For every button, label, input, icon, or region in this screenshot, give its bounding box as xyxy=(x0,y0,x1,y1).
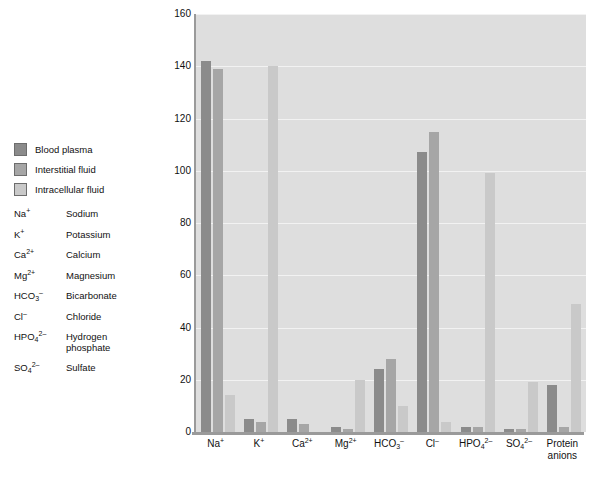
legend-item-intracellular-fluid: Intracellular fluid xyxy=(14,180,164,198)
x-axis-tick-label: Ca2+ xyxy=(281,438,324,451)
abbreviation-row-sodium: Na+ Sodium xyxy=(14,208,164,220)
plot-area: 020406080100120140160 xyxy=(194,14,586,432)
bar xyxy=(268,66,278,432)
bar-group xyxy=(543,304,586,432)
legend-swatch-list: Blood plasma Interstitial fluid Intracel… xyxy=(14,140,164,198)
x-axis-tick-label: Cl– xyxy=(411,438,454,451)
abbreviation-row-calcium: Ca2+ Calcium xyxy=(14,249,164,261)
x-axis-tick-label: Mg2+ xyxy=(324,438,367,451)
bar xyxy=(256,422,266,432)
y-axis-tick-label: 140 xyxy=(174,61,191,71)
bar xyxy=(398,406,408,432)
bar-chart: Total solute concentration (mEq/L) 02040… xyxy=(160,8,588,478)
bar xyxy=(485,173,495,432)
bar-group xyxy=(499,382,542,432)
legend-label-intracellular-fluid: Intracellular fluid xyxy=(35,184,104,195)
abbreviation-row-magnesium: Mg2+ Magnesium xyxy=(14,270,164,282)
bar-group xyxy=(369,359,412,432)
bar xyxy=(441,422,451,432)
y-axis-tick-label: 60 xyxy=(180,270,191,280)
abbreviation-row-hydrogen-phosphate: HPO42– Hydrogenphosphate xyxy=(14,331,164,353)
bar-group xyxy=(413,132,456,432)
abbreviation-symbol-hydrogen-phosphate: HPO42– xyxy=(14,331,66,343)
bar xyxy=(571,304,581,432)
legend-label-interstitial-fluid: Interstitial fluid xyxy=(35,164,96,175)
legend-swatch-blood-plasma xyxy=(14,143,27,156)
bar-group xyxy=(239,66,282,432)
x-axis-tick-label: HPO42– xyxy=(454,438,497,451)
y-axis-tick-label: 20 xyxy=(180,375,191,385)
bar xyxy=(287,419,297,432)
x-axis-tick-label: Proteinanions xyxy=(541,438,584,462)
abbreviation-symbol-magnesium: Mg2+ xyxy=(14,270,66,282)
abbreviation-name-hydrogen-phosphate: Hydrogenphosphate xyxy=(66,331,110,353)
abbreviation-row-bicarbonate: HCO3– Bicarbonate xyxy=(14,290,164,302)
abbreviation-row-chloride: Cl– Chloride xyxy=(14,311,164,323)
bar xyxy=(386,359,396,432)
bar xyxy=(299,424,309,432)
x-axis-line xyxy=(192,432,584,435)
y-axis-tick-label: 80 xyxy=(180,218,191,228)
bar xyxy=(528,382,538,432)
abbreviation-name-calcium: Calcium xyxy=(66,249,100,260)
bar xyxy=(429,132,439,432)
abbreviation-name-magnesium: Magnesium xyxy=(66,270,115,281)
bar xyxy=(355,380,365,432)
x-axis-tick-label: HCO3– xyxy=(367,438,410,451)
y-axis-tick-label: 40 xyxy=(180,323,191,333)
bar xyxy=(225,395,235,432)
bar-group xyxy=(326,380,369,432)
y-axis-tick-label: 120 xyxy=(174,114,191,124)
legend-swatch-intracellular-fluid xyxy=(14,183,27,196)
abbreviation-list: Na+ Sodium K+ Potassium Ca2+ Calcium Mg2… xyxy=(14,208,164,374)
bar xyxy=(213,69,223,432)
y-axis-tick-label: 0 xyxy=(185,427,191,437)
abbreviation-row-potassium: K+ Potassium xyxy=(14,229,164,241)
abbreviation-symbol-chloride: Cl– xyxy=(14,311,66,323)
legend-swatch-interstitial-fluid xyxy=(14,163,27,176)
gridline xyxy=(196,14,586,15)
bar xyxy=(547,385,557,432)
abbreviation-name-chloride: Chloride xyxy=(66,311,101,322)
abbreviation-symbol-sulfate: SO42– xyxy=(14,362,66,374)
x-axis-tick-label: K+ xyxy=(237,438,280,451)
x-axis-tick-label: Na+ xyxy=(194,438,237,451)
legend-item-blood-plasma: Blood plasma xyxy=(14,140,164,158)
abbreviation-symbol-calcium: Ca2+ xyxy=(14,249,66,261)
abbreviation-symbol-bicarbonate: HCO3– xyxy=(14,290,66,302)
x-axis-tick-label: SO42– xyxy=(497,438,540,451)
y-axis-tick-label: 160 xyxy=(174,9,191,19)
bar-group xyxy=(456,173,499,432)
y-axis-tick-label: 100 xyxy=(174,166,191,176)
bar xyxy=(374,369,384,432)
abbreviation-name-bicarbonate: Bicarbonate xyxy=(66,290,117,301)
bar xyxy=(417,152,427,432)
abbreviation-name-sodium: Sodium xyxy=(66,208,98,219)
legend-label-blood-plasma: Blood plasma xyxy=(35,144,93,155)
legend-item-interstitial-fluid: Interstitial fluid xyxy=(14,160,164,178)
bar-group xyxy=(196,61,239,432)
bar-group xyxy=(283,419,326,432)
abbreviation-symbol-potassium: K+ xyxy=(14,229,66,241)
plot-wrapper: 020406080100120140160 Na+K+Ca2+Mg2+HCO3–… xyxy=(194,14,584,440)
abbreviation-row-sulfate: SO42– Sulfate xyxy=(14,362,164,374)
chart-legend-key: Blood plasma Interstitial fluid Intracel… xyxy=(14,140,164,382)
abbreviation-symbol-sodium: Na+ xyxy=(14,208,66,220)
abbreviation-name-potassium: Potassium xyxy=(66,229,110,240)
bar xyxy=(201,61,211,432)
bar xyxy=(244,419,254,432)
abbreviation-name-sulfate: Sulfate xyxy=(66,362,96,373)
